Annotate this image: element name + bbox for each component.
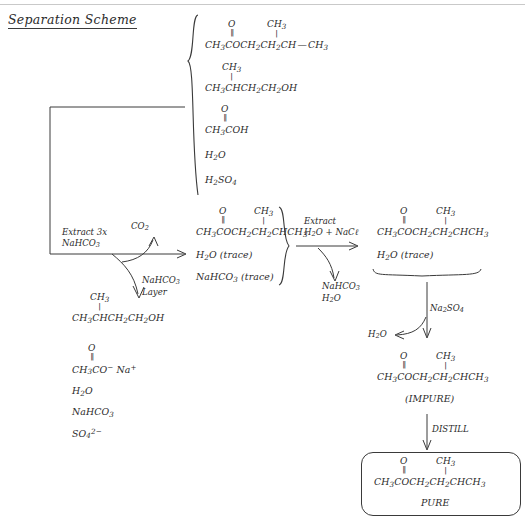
organic2-ester-carbonyl: O ‖ — [400, 207, 407, 224]
starting-sulfuric-acid: H2SO4 — [205, 175, 237, 187]
starting-ester-carbonyl: O ‖ — [228, 20, 235, 37]
drying-agent-label: Na2SO4 — [430, 303, 464, 315]
bicarb-alcohol-chain: CH3CHCH2CH2OH — [72, 313, 164, 325]
separation-scheme-sheet: Separation Scheme O ‖ CH3 | CH3COCH2CH2C… — [0, 0, 525, 525]
pure-ester-chain: CH3COCH2CH2CHCH3 — [374, 477, 486, 489]
distill-label: DISTILL — [432, 424, 469, 435]
starting-alcohol-methyl-branch: CH3 | — [222, 63, 241, 81]
double-bond-icon: ‖ — [400, 361, 407, 369]
acetic-acid-carbonyl: O ‖ — [221, 105, 228, 122]
extract-bicarbonate-line1: Extract 3x — [62, 227, 107, 237]
aqueous-waste-arrow — [316, 246, 352, 284]
bicarbonate-layer-line2: Layer — [142, 287, 167, 297]
starting-ester-methyl-branch: CH3 | — [267, 20, 286, 38]
pure-ester-carbonyl: O ‖ — [400, 457, 407, 474]
carbon-dioxide-label: CO2 — [131, 221, 149, 233]
impure-label: (IMPURE) — [405, 394, 454, 405]
starting-water: H2O — [205, 150, 226, 162]
pure-label: PURE — [421, 498, 449, 509]
extract-brine-label: Extract H2O + NaCℓ — [304, 216, 358, 238]
double-bond-icon: ‖ — [219, 216, 226, 224]
bicarb-sodium-bicarbonate: NaHCO3 — [72, 407, 114, 419]
organic2-ester-chain: CH3COCH2CH2CHCH3 — [377, 227, 489, 239]
branch-bond-icon: | — [436, 362, 455, 370]
organic1-brace — [277, 206, 293, 286]
double-bond-icon: ‖ — [228, 29, 235, 37]
water-removed-arrow — [393, 315, 429, 341]
page-top-rule — [0, 4, 525, 5]
organic1-methyl-branch: CH3 | — [254, 207, 273, 225]
acetate-salt-chain: CH3CO− Na+ — [72, 364, 137, 377]
double-bond-icon: ‖ — [88, 353, 95, 361]
branch-bond-icon: | — [267, 30, 286, 38]
branch-bond-icon: | — [436, 217, 455, 225]
bicarbonate-layer-label: NaHCO3 Layer — [142, 275, 180, 297]
double-bond-icon: ‖ — [400, 216, 407, 224]
branch-bond-icon: | — [222, 73, 241, 81]
acetic-acid-chain: CH3COH — [205, 125, 249, 137]
extract-brine-line2: H2O + NaCℓ — [304, 227, 358, 237]
impure-methyl-branch: CH3 | — [436, 352, 455, 370]
organic1-ester-carbonyl: O ‖ — [219, 207, 226, 224]
impure-ester-carbonyl: O ‖ — [400, 352, 407, 369]
impure-ester-chain: CH3COCH2CH2CHCH3 — [377, 372, 489, 384]
organic2-water-trace: H2O (trace) — [377, 250, 434, 262]
starting-alcohol-chain: CH3CHCH2CH2OH — [205, 83, 297, 95]
page-title: Separation Scheme — [8, 12, 137, 29]
aqueous-waste-line2: H2O — [322, 293, 341, 303]
bicarbonate-layer-line1: NaHCO3 — [142, 275, 180, 285]
organic1-water-trace: H2O (trace) — [196, 250, 253, 262]
branch-bond-icon: | — [90, 303, 109, 311]
pure-methyl-branch: CH3 | — [436, 457, 455, 475]
double-bond-icon: ‖ — [221, 114, 228, 122]
double-bond-icon: ‖ — [400, 466, 407, 474]
starting-ester-chain: CH3COCH2CH2CH — CH3 — [205, 40, 328, 52]
aqueous-waste-line1: NaHCO3 — [322, 281, 360, 291]
acetate-salt-carbonyl: O ‖ — [88, 344, 95, 361]
extract-bicarbonate-label: Extract 3x NaHCO3 — [62, 227, 107, 249]
aqueous-waste-label: NaHCO3 H2O — [322, 281, 360, 304]
extract-brine-line1: Extract — [304, 216, 336, 226]
branch-bond-icon: | — [254, 217, 273, 225]
branch-bond-icon: | — [436, 467, 455, 475]
organic1-bicarbonate-trace: NaHCO3 (trace) — [196, 272, 274, 284]
organic2-methyl-branch: CH3 | — [436, 207, 455, 225]
water-removed-label: H2O — [368, 329, 387, 341]
bicarb-sulfate-ion: SO42− — [72, 428, 102, 441]
extract-bicarbonate-line2: NaHCO3 — [62, 238, 100, 248]
bicarb-water: H2O — [72, 386, 93, 398]
bicarb-alcohol-methyl-branch: CH3 | — [90, 293, 109, 311]
